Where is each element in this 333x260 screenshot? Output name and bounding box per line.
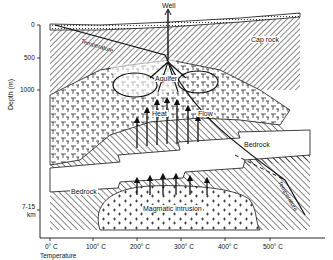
heat-label: Heat <box>151 110 168 117</box>
aquifer-label: Aquifer <box>154 75 178 82</box>
y-tick-7-15: 7-15 <box>22 203 35 210</box>
y-tick-0: 0 <box>31 21 35 28</box>
magmatic-intrusion-label: Magmatic intrusion <box>142 205 203 212</box>
cap-rock-label: Cap rock <box>250 36 280 43</box>
x-tick-500: 500° C <box>263 243 283 250</box>
x-tick-400: 400° C <box>218 243 238 250</box>
x-tick-300: 300° C <box>174 243 194 250</box>
x-axis-label: Temperature <box>40 252 77 259</box>
y-tick-km: km <box>27 211 36 218</box>
bedrock-lower-label: Bedrock <box>70 188 98 195</box>
x-tick-100: 100° C <box>86 243 106 250</box>
y-tick-1000: 1000 <box>20 86 34 93</box>
y-tick-500: 500 <box>24 54 35 61</box>
y-axis-label: Depth (m) <box>7 79 14 110</box>
geothermal-diagram <box>0 0 333 260</box>
flow-label: Flow <box>197 110 214 117</box>
x-tick-0: 0° C <box>45 243 58 250</box>
well-label: Well <box>161 2 176 9</box>
x-tick-200: 200° C <box>130 243 150 250</box>
bedrock-upper-label: Bedrock <box>243 141 271 148</box>
